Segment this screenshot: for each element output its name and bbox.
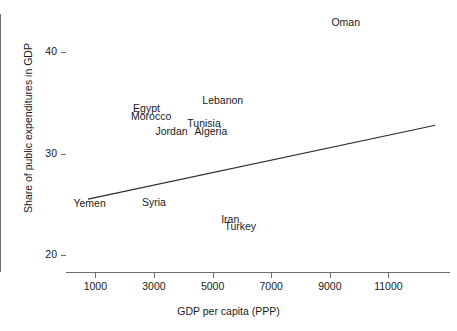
data-point-lebanon: Lebanon — [202, 95, 243, 106]
y-axis-title: Share of public expenditures in GDP — [22, 38, 34, 218]
data-point-syria: Syria — [142, 197, 166, 208]
x-tick-label-1000: 1000 — [70, 281, 120, 292]
x-tick-3000 — [154, 273, 155, 278]
y-tick-label-40: 40 — [31, 46, 57, 57]
data-point-yemen: Yemen — [73, 198, 105, 209]
data-point-oman: Oman — [331, 17, 360, 28]
x-axis-line — [66, 272, 450, 273]
x-axis-title: GDP per capita (PPP) — [0, 305, 457, 317]
x-tick-1000 — [95, 273, 96, 278]
y-tick-30 — [61, 154, 66, 155]
x-tick-7000 — [271, 273, 272, 278]
data-point-jordan: Jordan — [156, 126, 188, 137]
x-tick-9000 — [330, 273, 331, 278]
data-point-algeria: Algeria — [195, 126, 228, 137]
x-tick-5000 — [213, 273, 214, 278]
y-tick-label-30: 30 — [31, 148, 57, 159]
regression-line — [88, 125, 435, 199]
y-tick-label-20: 20 — [31, 249, 57, 260]
x-tick-label-5000: 5000 — [188, 281, 238, 292]
scatter-chart: Share of public expenditures in GDP GDP … — [0, 0, 457, 331]
data-point-morocco: Morocco — [131, 111, 171, 122]
x-tick-label-7000: 7000 — [246, 281, 296, 292]
x-tick-label-3000: 3000 — [129, 281, 179, 292]
y-axis-line — [0, 14, 1, 272]
y-tick-20 — [61, 255, 66, 256]
data-point-turkey: Turkey — [224, 221, 256, 232]
y-tick-40 — [61, 52, 66, 53]
x-tick-label-9000: 9000 — [305, 281, 355, 292]
x-tick-label-11000: 11000 — [363, 281, 413, 292]
x-tick-11000 — [388, 273, 389, 278]
